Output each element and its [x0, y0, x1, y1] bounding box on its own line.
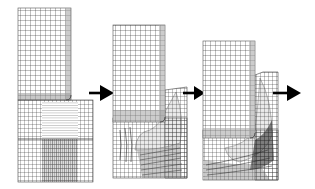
punch-edge-shade	[249, 41, 255, 138]
punch-edge-shade	[65, 8, 71, 100]
punch-mesh	[18, 8, 71, 100]
arrow-1-icon	[89, 85, 114, 101]
punch-base-shade	[113, 110, 165, 122]
stage-1-initial-mesh	[18, 8, 93, 182]
punch-edge-shade	[159, 25, 165, 122]
punch-base-shade	[203, 128, 255, 138]
punch-grid	[203, 41, 255, 138]
block-column-shade	[42, 139, 78, 182]
punch-base-shade	[18, 93, 71, 100]
punch-grid	[113, 25, 165, 122]
block-center-hatch	[42, 102, 78, 139]
mesh-deformation-diagram	[0, 0, 315, 189]
stage-3-final-mesh	[203, 41, 278, 180]
stage-2-intermediate-mesh	[113, 25, 187, 178]
